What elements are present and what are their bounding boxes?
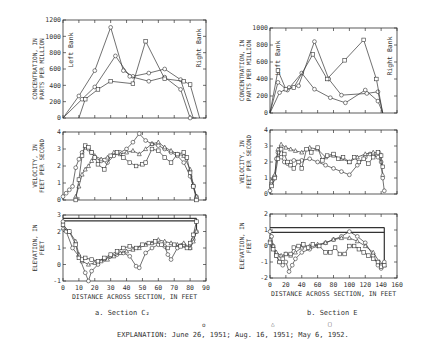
data-point-circle [316, 160, 320, 164]
data-point-square [284, 87, 288, 91]
data-point-square [316, 146, 320, 150]
data-point-circle [137, 132, 141, 136]
data-point-circle [278, 91, 282, 95]
y-tick-label: 0 [264, 242, 268, 250]
x-tick-label: 100 [344, 281, 356, 289]
series-line [63, 27, 193, 118]
data-point-square [371, 155, 375, 159]
x-tick-label: 80 [330, 281, 338, 289]
data-point-square [306, 246, 310, 250]
data-point-square [74, 243, 78, 247]
figure: 020040060080010001200CONCENTRATION, INPA… [0, 0, 425, 349]
y-tick-label: 1 [264, 174, 268, 182]
data-point-square [279, 147, 283, 151]
x-tick-label: 20 [282, 281, 290, 289]
y-tick-label: 0 [57, 196, 61, 204]
data-point-square [103, 168, 107, 172]
series-line [63, 56, 196, 118]
data-point-square [352, 244, 356, 248]
y-axis-label: ELEVATION, INFEET [31, 224, 45, 271]
data-point-square [144, 39, 148, 43]
data-point-circle [328, 96, 332, 100]
data-point-square [163, 77, 167, 81]
data-point-square [273, 176, 277, 180]
y-tick-label: 1 [57, 244, 61, 252]
data-point-square [375, 77, 379, 81]
data-point-circle [87, 279, 91, 283]
data-point-square [68, 230, 72, 234]
right-bank-label: Right Bank [386, 36, 394, 75]
x-tick-label: 80 [186, 284, 194, 292]
data-point-square [317, 244, 321, 248]
data-point-square [321, 159, 325, 163]
data-point-square [109, 154, 113, 158]
data-point-square [332, 152, 336, 156]
data-point-triangle [131, 149, 135, 153]
data-point-circle [355, 235, 359, 239]
data-point-triangle [137, 152, 141, 156]
data-point-square [96, 88, 100, 92]
data-point-circle [287, 270, 291, 274]
data-point-square [371, 257, 375, 261]
data-point-square [352, 155, 356, 159]
y-tick-label: 2 [264, 210, 268, 218]
data-point-square [336, 157, 340, 161]
data-point-square [144, 161, 148, 165]
data-point-circle [268, 189, 272, 193]
data-point-square [329, 251, 333, 255]
data-point-square [376, 260, 380, 264]
data-point-circle [290, 263, 294, 267]
data-point-square [276, 157, 280, 161]
data-point-square [379, 154, 383, 158]
data-point-square [289, 252, 293, 256]
x-tick-label: 70 [170, 284, 178, 292]
data-point-square [90, 151, 94, 155]
data-point-square [134, 164, 138, 168]
y-tick-label: -1 [260, 258, 268, 266]
data-point-square [131, 82, 135, 86]
data-point-circle [83, 271, 87, 275]
y-tick-label: 800 [256, 41, 268, 49]
data-point-square [141, 243, 145, 247]
data-point-square [343, 252, 347, 256]
data-point-square [348, 160, 352, 164]
data-point-square [157, 149, 161, 153]
data-point-circle [347, 173, 351, 177]
data-point-square [338, 252, 342, 256]
y-tick-label: 1200 [45, 16, 61, 24]
data-point-circle [188, 116, 192, 120]
data-point-square [367, 162, 371, 166]
y-tick-label: 1000 [45, 33, 61, 41]
data-point-square [268, 241, 272, 245]
data-point-square [195, 220, 199, 224]
data-point-square [93, 156, 97, 160]
data-point-square [96, 163, 100, 167]
data-point-circle [61, 195, 65, 199]
data-point-square [281, 257, 285, 261]
x-tick-label: 40 [123, 284, 131, 292]
data-point-circle [344, 101, 348, 105]
data-point-circle [313, 40, 317, 44]
data-point-square [276, 69, 280, 73]
data-point-square [362, 38, 366, 42]
data-point-square [182, 79, 186, 83]
x-tick-label: 30 [107, 284, 115, 292]
data-point-square [128, 161, 132, 165]
data-point-circle [182, 161, 186, 165]
data-point-square [191, 185, 195, 189]
plot-b-concentration: 02004006008001000CONCENTRATION, INPARTS … [238, 24, 397, 117]
y-tick-label: 600 [49, 65, 61, 73]
data-point-square [122, 246, 126, 250]
data-point-circle [163, 67, 167, 71]
data-point-square [96, 259, 100, 263]
data-point-square [325, 77, 329, 81]
x-tick-label: 60 [154, 284, 162, 292]
x-tick-label: 160 [391, 281, 403, 289]
data-point-circle [128, 254, 132, 258]
data-point-circle [376, 99, 380, 103]
data-point-square [311, 243, 315, 247]
data-point-square [169, 161, 173, 165]
data-point-square [309, 151, 313, 155]
data-point-circle [137, 266, 141, 270]
data-point-circle [93, 69, 97, 73]
